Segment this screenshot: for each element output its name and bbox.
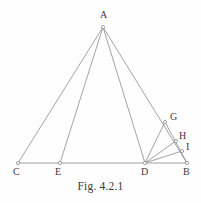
point-marker-C	[16, 161, 19, 164]
point-marker-D	[143, 161, 146, 164]
point-marker-G	[163, 120, 166, 123]
point-label-C: C	[13, 167, 20, 177]
segment-D-G	[145, 122, 165, 163]
point-marker-B	[185, 161, 188, 164]
segment-D-H	[145, 141, 176, 163]
point-label-B: B	[183, 167, 190, 177]
segment-A-C	[18, 27, 103, 163]
geometry-diagram	[0, 0, 201, 203]
point-label-H: H	[179, 131, 186, 141]
figure-container: ACEDBGHI Fig. 4.2.1	[0, 0, 201, 203]
point-label-E: E	[55, 167, 61, 177]
point-label-I: I	[186, 142, 189, 152]
figure-caption: Fig. 4.2.1	[0, 180, 201, 192]
point-marker-H	[174, 139, 177, 142]
point-label-A: A	[100, 10, 107, 20]
segment-A-E	[60, 27, 103, 163]
point-marker-A	[101, 25, 104, 28]
point-label-G: G	[170, 112, 177, 122]
point-markers-group	[16, 25, 188, 164]
segment-D-I	[145, 151, 182, 163]
segments-group	[18, 27, 187, 163]
point-label-D: D	[141, 167, 148, 177]
segment-A-D	[103, 27, 145, 163]
point-marker-E	[58, 161, 61, 164]
point-marker-I	[180, 149, 183, 152]
